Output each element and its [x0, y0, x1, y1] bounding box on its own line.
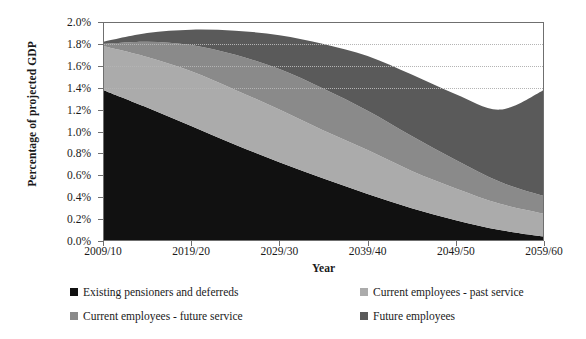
plot-area	[103, 22, 544, 241]
y-tick-label: 0.4%	[67, 191, 91, 203]
x-tick-label: 2049/50	[437, 245, 475, 257]
legend-item[interactable]: Current employees - past service	[360, 286, 524, 298]
y-tick-label: 1.4%	[67, 82, 91, 94]
stacked-area-chart: Percentage of projected GDP 0.0%0.2%0.4%…	[0, 0, 586, 339]
y-tick-mark	[98, 219, 103, 220]
plot-frame-overlay	[103, 22, 544, 241]
y-tick-label: 1.0%	[67, 126, 91, 138]
x-axis-title: Year	[103, 262, 544, 274]
x-tick-mark	[368, 241, 369, 246]
legend-item[interactable]: Existing pensioners and deferreds	[70, 286, 239, 298]
y-tick-mark	[98, 66, 103, 67]
x-tick-mark	[544, 241, 545, 246]
legend-swatch-icon	[70, 288, 78, 296]
x-tick-label: 2019/20	[172, 245, 210, 257]
y-axis-tick-labels: 0.0%0.2%0.4%0.6%0.8%1.0%1.2%1.4%1.6%1.8%…	[48, 22, 98, 241]
y-tick-label: 1.2%	[67, 104, 91, 116]
y-tick-mark	[98, 22, 103, 23]
y-tick-mark	[98, 197, 103, 198]
y-tick-mark	[98, 175, 103, 176]
x-tick-label: 2009/10	[84, 245, 122, 257]
y-tick-label: 2.0%	[67, 16, 91, 28]
legend-swatch-icon	[360, 312, 368, 320]
y-tick-mark	[98, 88, 103, 89]
chart-legend: Existing pensioners and deferredsCurrent…	[70, 286, 540, 334]
y-tick-label: 0.6%	[67, 169, 91, 181]
y-tick-mark	[98, 153, 103, 154]
legend-label: Current employees - past service	[373, 286, 524, 298]
x-tick-mark	[279, 241, 280, 246]
x-tick-label: 2029/30	[261, 245, 299, 257]
x-tick-mark	[103, 241, 104, 246]
x-axis-tick-labels: 2009/102019/202029/302039/402049/502059/…	[103, 245, 544, 261]
x-tick-mark	[456, 241, 457, 246]
x-tick-mark	[191, 241, 192, 246]
y-tick-mark	[98, 44, 103, 45]
x-tick-label: 2059/60	[525, 245, 563, 257]
legend-item[interactable]: Future employees	[360, 310, 455, 322]
legend-label: Future employees	[373, 310, 455, 322]
legend-swatch-icon	[70, 312, 78, 320]
y-axis-title: Percentage of projected GDP	[26, 4, 38, 224]
y-tick-label: 1.6%	[67, 60, 91, 72]
y-tick-label: 0.2%	[67, 213, 91, 225]
y-tick-label: 0.8%	[67, 147, 91, 159]
legend-swatch-icon	[360, 288, 368, 296]
y-tick-mark	[98, 132, 103, 133]
legend-label: Existing pensioners and deferreds	[83, 286, 239, 298]
y-tick-label: 1.8%	[67, 38, 91, 50]
x-tick-label: 2039/40	[349, 245, 387, 257]
y-tick-mark	[98, 110, 103, 111]
legend-label: Current employees - future service	[83, 310, 243, 322]
legend-item[interactable]: Current employees - future service	[70, 310, 243, 322]
